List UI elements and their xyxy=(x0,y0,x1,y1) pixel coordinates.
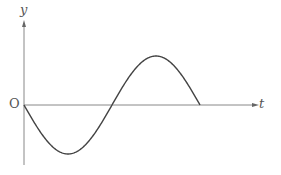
wave-diagram: y t O xyxy=(0,0,281,175)
graph-canvas xyxy=(0,0,281,175)
t-axis-label: t xyxy=(259,96,264,111)
y-axis-label: y xyxy=(20,2,27,17)
y-axis-arrow-icon xyxy=(22,20,26,27)
t-axis-arrow-icon xyxy=(252,103,259,107)
origin-label: O xyxy=(9,96,20,111)
